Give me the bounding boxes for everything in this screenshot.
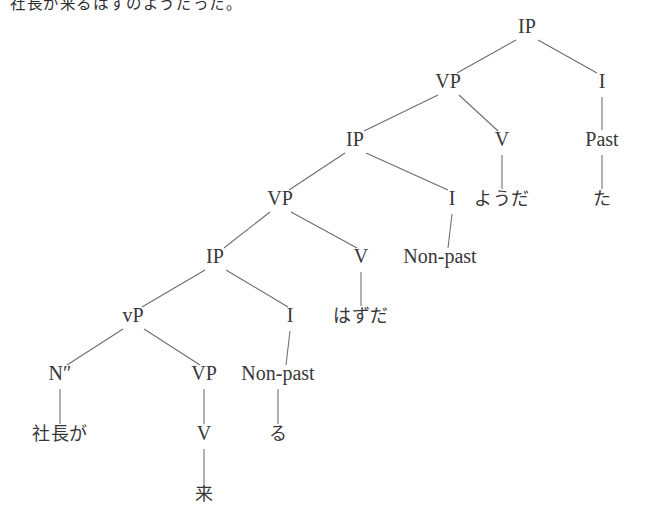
tree-node-shacho: 社長が [32, 423, 88, 444]
tree-edge-layer [60, 40, 602, 484]
tree-node-vp3: vP [122, 304, 143, 326]
tree-edge-vp3-n2 [67, 329, 123, 365]
tree-node-vp2: VP [267, 187, 293, 209]
tree-node-ta: た [593, 188, 612, 209]
tree-node-ip3: IP [206, 245, 224, 267]
tree-node-ru: る [269, 423, 288, 444]
tree-node-i1: I [599, 70, 606, 92]
tree-edge-vp1-ip2 [364, 95, 438, 131]
tree-node-past: Past [585, 128, 619, 150]
tree-node-i3: I [287, 304, 294, 326]
tree-edge-ip3-vp3 [142, 270, 205, 307]
tree-edge-ip2-i2 [366, 153, 448, 190]
tree-edge-i2-np1 [448, 214, 452, 248]
tree-edge-ip3-i3 [226, 270, 288, 307]
tree-node-ip1: IP [518, 15, 536, 37]
tree-node-hazuda: はずだ [333, 305, 389, 326]
tree-node-kuru: 来 [195, 483, 214, 504]
tree-node-layer: IPVPIPastたIPVようだVPINon-pastIPVはずだvPINon-… [32, 15, 619, 504]
tree-node-i2: I [449, 187, 456, 209]
tree-edge-vp1-v1 [459, 95, 498, 131]
tree-edge-ip2-vp2 [289, 153, 345, 190]
tree-edge-vp2-v2 [291, 212, 357, 248]
tree-edge-vp2-ip3 [224, 212, 270, 248]
syntax-tree-figure: 社長が来るはずのようだった。 IPVPIPastたIPVようだVPINon-pa… [0, 0, 648, 516]
tree-node-v1: V [495, 128, 510, 150]
tree-edge-vp3-vp4 [144, 329, 200, 365]
tree-node-vp4: VP [191, 362, 217, 384]
tree-node-v2: V [354, 245, 369, 267]
tree-node-np1: Non-past [403, 245, 477, 268]
tree-edge-ip1-vp1 [457, 40, 516, 73]
tree-node-v3: V [197, 422, 212, 444]
tree-node-ip2: IP [346, 128, 364, 150]
tree-node-np2: Non-past [241, 362, 315, 385]
tree-edge-i3-np2 [286, 331, 290, 365]
tree-node-vp1: VP [435, 70, 461, 92]
tree-node-n2: N″ [49, 362, 72, 384]
syntax-tree-canvas: IPVPIPastたIPVようだVPINon-pastIPVはずだvPINon-… [0, 0, 648, 516]
tree-node-youda: ようだ [474, 188, 530, 209]
tree-edge-ip1-i1 [538, 40, 597, 73]
